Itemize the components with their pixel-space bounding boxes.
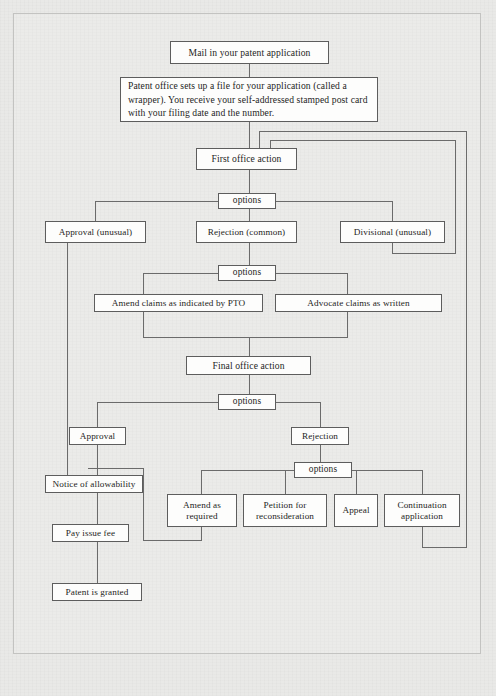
node-pay-issue-fee[interactable]: Pay issue fee: [52, 524, 129, 542]
node-rejection-common[interactable]: Rejection (common): [196, 221, 297, 243]
edge-advocate-final: [250, 312, 348, 338]
node-amend-as-required[interactable]: Amend as required: [167, 494, 237, 527]
flowchart-page: Mail in your patent application Patent o…: [0, 0, 496, 696]
node-approval-unusual[interactable]: Approval (unusual): [45, 221, 146, 243]
edge-amendpto-final: [144, 312, 250, 338]
node-options-first-action[interactable]: options: [218, 193, 276, 209]
node-amend-claims-pto[interactable]: Amend claims as indicated by PTO: [94, 294, 263, 312]
node-options-final-action[interactable]: options: [218, 394, 276, 410]
node-options-rejection-response[interactable]: options: [218, 265, 276, 281]
node-patent-office-wrapper[interactable]: Patent office sets up a file for your ap…: [120, 77, 378, 122]
node-first-office-action[interactable]: First office action: [196, 148, 297, 170]
node-final-office-action[interactable]: Final office action: [186, 356, 311, 375]
node-options-final-rejection[interactable]: options: [294, 462, 352, 478]
node-divisional-unusual[interactable]: Divisional (unusual): [340, 221, 445, 243]
node-notice-of-allowability[interactable]: Notice of allowability: [45, 475, 143, 493]
edge-continuation-feedback: [260, 132, 467, 548]
node-approval[interactable]: Approval: [69, 427, 126, 445]
node-patent-is-granted[interactable]: Patent is granted: [52, 583, 142, 601]
node-mail-in-application[interactable]: Mail in your patent application: [170, 41, 329, 64]
node-petition-for-reconsideration[interactable]: Petition for reconsideration: [243, 494, 327, 527]
node-advocate-claims-written[interactable]: Advocate claims as written: [275, 294, 442, 312]
node-appeal[interactable]: Appeal: [334, 494, 378, 527]
flowchart-diagram: Mail in your patent application Patent o…: [0, 0, 496, 696]
node-continuation-application[interactable]: Continuation application: [384, 494, 460, 527]
node-rejection[interactable]: Rejection: [291, 427, 349, 445]
